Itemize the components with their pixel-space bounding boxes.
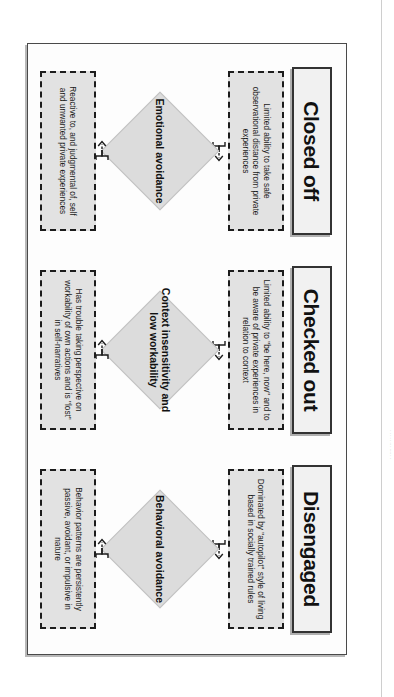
diamond-shape: [101, 490, 220, 609]
connector-arrow-bottom-checked-out: [94, 339, 110, 361]
note-box-bottom-checked-out[interactable]: Has trouble taking perspective on workab…: [40, 270, 96, 430]
page-edge-cropped-text: · · · · · ·· · ···· · ·: [384, 430, 394, 680]
scanned-page: Closed off Limited ability to take safe …: [0, 0, 394, 697]
note-box-top-closed-off[interactable]: Limited ability to take safe observation…: [228, 71, 284, 231]
diagram-column-closed-off: Closed off Limited ability to take safe …: [26, 56, 346, 246]
note-text: Dominated by "autopilot" style of living…: [246, 477, 267, 621]
column-header-label: Closed off: [302, 101, 323, 201]
note-box-top-disengaged[interactable]: Dominated by "autopilot" style of living…: [228, 469, 284, 629]
note-text: Limited ability to "be here, now" and to…: [240, 278, 271, 422]
page-gutter-line: [381, 0, 382, 697]
column-header-checked-out[interactable]: Checked out: [292, 266, 332, 434]
note-text: Limited ability to take safe observation…: [240, 79, 271, 223]
column-header-disengaged[interactable]: Disengaged: [292, 465, 332, 633]
figure-canvas: Closed off Limited ability to take safe …: [27, 43, 347, 655]
figure-rotation-wrapper: Closed off Limited ability to take safe …: [27, 43, 347, 655]
diagram-column-checked-out: Checked out Limited ability to "be here,…: [26, 255, 346, 445]
diagram-column-disengaged: Disengaged Dominated by "autopilot" styl…: [26, 454, 346, 644]
note-box-bottom-closed-off[interactable]: Reactive to, and judgmental of, self and…: [40, 71, 96, 231]
note-text: Reactive to, and judgmental of, self and…: [58, 79, 79, 223]
column-header-closed-off[interactable]: Closed off: [292, 67, 332, 235]
column-header-label: Checked out: [302, 289, 323, 412]
diamond-disengaged[interactable]: Behavioral avoidance: [104, 485, 216, 613]
connector-arrow-bottom-closed-off: [94, 140, 110, 162]
note-box-top-checked-out[interactable]: Limited ability to "be here, now" and to…: [228, 270, 284, 430]
connector-arrow-bottom-disengaged: [94, 538, 110, 560]
note-text: Behavior patterns are persistently passi…: [52, 477, 83, 621]
diamond-shape: [101, 291, 220, 410]
note-box-bottom-disengaged[interactable]: Behavior patterns are persistently passi…: [40, 469, 96, 629]
column-header-label: Disengaged: [302, 491, 323, 607]
diamond-closed-off[interactable]: Emotional avoidance: [104, 87, 216, 215]
diamond-checked-out[interactable]: Context insensitivity and low workabilit…: [104, 286, 216, 414]
diamond-shape: [101, 92, 220, 211]
note-text: Has trouble taking perspective on workab…: [52, 278, 83, 422]
